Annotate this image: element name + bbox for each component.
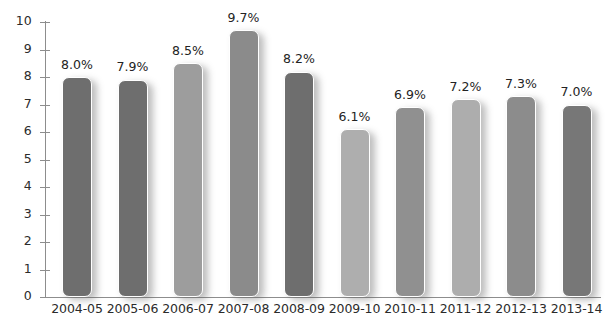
x-axis-tick-label: 2010-11 [379,303,441,316]
bar[interactable] [284,72,314,298]
x-axis-tick-label: 2008-09 [268,303,330,316]
x-axis-tick-label: 2012-13 [490,303,552,316]
y-axis-tick-label: 1 [0,263,32,276]
y-axis-tick [40,270,50,271]
y-axis-tick-label: 2 [0,235,32,248]
plot-area: 012345678910 8.0%7.9%8.5%9.7%8.2%6.1%6.9… [0,0,609,336]
y-axis-tick [40,77,50,78]
x-axis-tick-label: 2004-05 [46,303,108,316]
bar[interactable] [506,96,536,297]
bar[interactable] [562,105,592,298]
y-axis-tick [40,242,50,243]
bar[interactable] [173,63,203,297]
bar[interactable] [229,30,259,297]
y-axis-tick [40,22,50,23]
bar[interactable] [451,99,481,297]
x-axis-line [45,297,601,298]
y-axis-tick-label: 8 [0,70,32,83]
y-axis-tick-label: 10 [0,15,32,28]
x-axis-tick-label: 2013-14 [546,303,608,316]
bar-value-label: 9.7% [220,12,268,25]
bar-value-label: 7.0% [553,86,601,99]
bar[interactable] [340,129,370,297]
y-axis-tick [40,132,50,133]
bar-value-label: 8.2% [275,53,323,66]
y-axis-tick-label: 4 [0,180,32,193]
y-axis-tick [40,215,50,216]
y-axis-tick-label: 5 [0,153,32,166]
bar-chart: 012345678910 8.0%7.9%8.5%9.7%8.2%6.1%6.9… [0,0,609,336]
y-axis-tick [40,187,50,188]
bar[interactable] [118,80,148,297]
y-axis-tick-label: 7 [0,98,32,111]
x-axis-tick-label: 2005-06 [102,303,164,316]
y-axis-tick [40,105,50,106]
bar-value-label: 7.9% [109,61,157,74]
x-axis-tick-label: 2011-12 [435,303,497,316]
y-axis-tick-label: 3 [0,208,32,221]
bar-value-label: 6.9% [386,89,434,102]
x-axis-tick-label: 2007-08 [213,303,275,316]
y-axis-tick-label: 9 [0,43,32,56]
bar[interactable] [395,107,425,297]
y-axis-tick [40,160,50,161]
y-axis-tick-label: 0 [0,290,32,303]
bar[interactable] [62,77,92,297]
bar-value-label: 8.5% [164,45,212,58]
bar-value-label: 7.3% [497,78,545,91]
bar-value-label: 6.1% [331,111,379,124]
y-axis-tick [40,50,50,51]
bar-value-label: 7.2% [442,81,490,94]
bar-value-label: 8.0% [53,59,101,72]
y-axis-tick-label: 6 [0,125,32,138]
x-axis-tick-label: 2006-07 [157,303,219,316]
x-axis-tick-label: 2009-10 [324,303,386,316]
